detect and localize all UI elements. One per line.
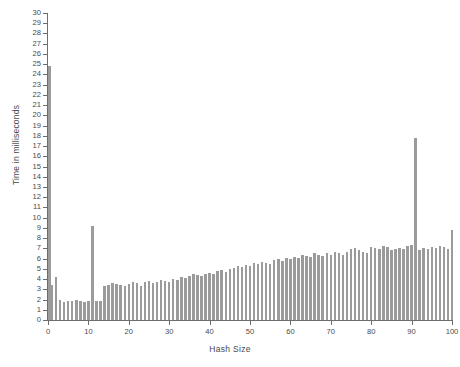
y-tick-label: 29 bbox=[33, 19, 41, 27]
bar bbox=[225, 272, 228, 320]
bar bbox=[317, 255, 320, 320]
x-tick bbox=[88, 320, 89, 325]
bar bbox=[148, 281, 151, 320]
bar bbox=[431, 247, 434, 320]
y-tick-label: 4 bbox=[37, 275, 41, 283]
bar bbox=[220, 270, 223, 320]
x-tick-label: 20 bbox=[114, 328, 144, 336]
x-tick-label: 80 bbox=[356, 328, 386, 336]
bar bbox=[326, 253, 329, 320]
bar bbox=[128, 284, 131, 320]
bar bbox=[237, 266, 240, 320]
y-tick-label: 12 bbox=[33, 193, 41, 201]
bar bbox=[124, 286, 127, 320]
bar bbox=[184, 278, 187, 320]
bar bbox=[386, 247, 389, 320]
bar bbox=[132, 282, 135, 320]
bar bbox=[273, 260, 276, 320]
x-tick-label: 40 bbox=[195, 328, 225, 336]
bar bbox=[366, 253, 369, 320]
bar bbox=[48, 247, 51, 320]
bar bbox=[374, 248, 377, 320]
bar bbox=[394, 249, 397, 320]
bar bbox=[87, 301, 90, 320]
bar bbox=[354, 248, 357, 320]
bar bbox=[140, 286, 143, 320]
bar bbox=[378, 249, 381, 320]
bar bbox=[334, 252, 337, 320]
x-tick-label: 100 bbox=[437, 328, 460, 336]
bar bbox=[261, 262, 264, 320]
bar bbox=[176, 280, 179, 320]
bar bbox=[358, 250, 361, 320]
bar bbox=[51, 285, 54, 320]
x-tick bbox=[331, 320, 332, 325]
y-tick-label: 2 bbox=[37, 296, 41, 304]
bar bbox=[103, 286, 106, 320]
bar bbox=[79, 301, 82, 320]
x-tick-label: 10 bbox=[73, 328, 103, 336]
bar bbox=[196, 275, 199, 320]
bar bbox=[71, 301, 74, 320]
y-tick-label: 5 bbox=[37, 265, 41, 273]
x-tick bbox=[290, 320, 291, 325]
bar bbox=[370, 247, 373, 320]
bar bbox=[350, 249, 353, 320]
y-tick-label: 21 bbox=[33, 101, 41, 109]
bar bbox=[443, 247, 446, 320]
y-tick-label: 14 bbox=[33, 173, 41, 181]
bar bbox=[382, 246, 385, 320]
y-tick-label: 10 bbox=[33, 214, 41, 222]
bar bbox=[285, 258, 288, 320]
y-tick-label: 13 bbox=[33, 183, 41, 191]
bar bbox=[99, 301, 102, 320]
y-axis-title: Time in milliseconds bbox=[11, 85, 21, 205]
y-tick-label: 11 bbox=[33, 203, 41, 211]
y-tick-label: 26 bbox=[33, 50, 41, 58]
x-tick-label: 60 bbox=[275, 328, 305, 336]
bar bbox=[265, 263, 268, 320]
bar bbox=[160, 280, 163, 320]
y-tick-label: 9 bbox=[37, 224, 41, 232]
x-tick bbox=[169, 320, 170, 325]
bar bbox=[406, 246, 409, 320]
bar bbox=[427, 249, 430, 320]
bar bbox=[418, 250, 421, 320]
bar bbox=[229, 269, 232, 320]
bar bbox=[59, 300, 62, 320]
bar bbox=[107, 285, 110, 320]
bar bbox=[439, 246, 442, 320]
x-tick bbox=[210, 320, 211, 325]
y-tick-label: 30 bbox=[33, 9, 41, 17]
bar bbox=[309, 257, 312, 320]
bar bbox=[200, 276, 203, 320]
bar bbox=[451, 230, 454, 320]
bar bbox=[91, 226, 94, 320]
y-tick-label: 25 bbox=[33, 60, 41, 68]
bar bbox=[192, 274, 195, 320]
x-tick bbox=[452, 320, 453, 325]
bar bbox=[390, 250, 393, 320]
bar bbox=[289, 259, 292, 320]
y-tick-label: 7 bbox=[37, 244, 41, 252]
bar bbox=[188, 276, 191, 320]
bar bbox=[212, 274, 215, 320]
bar bbox=[152, 283, 155, 320]
bar bbox=[301, 255, 304, 320]
bar bbox=[313, 253, 316, 320]
bar bbox=[346, 252, 349, 320]
bar bbox=[342, 255, 345, 320]
bar bbox=[204, 274, 207, 320]
bar bbox=[136, 283, 139, 320]
y-tick-label: 19 bbox=[33, 122, 41, 130]
y-tick-label: 28 bbox=[33, 29, 41, 37]
bar bbox=[75, 300, 78, 320]
bar bbox=[144, 282, 147, 320]
bar bbox=[172, 279, 175, 320]
bar bbox=[414, 138, 417, 320]
bar bbox=[249, 266, 252, 320]
bar bbox=[338, 253, 341, 320]
bar bbox=[398, 248, 401, 320]
y-tick-label: 0 bbox=[37, 316, 41, 324]
y-tick-label: 3 bbox=[37, 285, 41, 293]
